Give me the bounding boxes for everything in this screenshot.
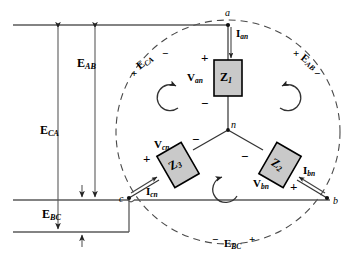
node-dot-b (325, 196, 329, 200)
source-label-ebc-arrow: EBC (42, 208, 61, 222)
eca-circle-plus-sign: + (131, 68, 137, 79)
van-plus-sign: + (201, 51, 208, 64)
vbn-plus-sign: + (290, 180, 297, 193)
eca-circle-minus-sign: − (162, 48, 168, 59)
node-dot-a (226, 23, 230, 27)
voltage-label-vbn: Vbn (253, 178, 269, 190)
current-arrow-ibn (299, 177, 325, 193)
vbn-minus-sign: − (241, 150, 248, 163)
vcn-minus-sign: − (192, 133, 199, 146)
loop-arrow-top-right (280, 85, 301, 111)
node-label-a: a (225, 8, 230, 18)
source-label-eab-arrow: EAB (77, 57, 96, 71)
branch-n-to-z2 (228, 130, 263, 150)
branch-z2-to-b (297, 180, 327, 198)
source-label-ebc-circle: EBC (224, 238, 241, 250)
current-label-ian: Ian (236, 28, 248, 40)
node-dot-c (127, 196, 131, 200)
node-dot-n (226, 128, 230, 132)
loop-arrow-top-left (157, 85, 178, 111)
impedance-label-z1: Z1 (220, 71, 232, 85)
eab-circle-minus-sign: − (314, 68, 320, 79)
ebc-circle-plus-sign: + (249, 234, 255, 245)
source-label-eca-arrow: ECA (40, 124, 59, 138)
vcn-plus-sign: + (143, 152, 150, 165)
current-label-icn: Icn (146, 186, 158, 198)
node-label-n: n (231, 120, 236, 130)
ebc-circle-minus-sign: − (212, 234, 218, 245)
voltage-label-vcn: Vcn (154, 139, 169, 151)
circuit-diagram: a b c n Z1 Z2 Z3 Van + − Vbn + − Vcn + −… (0, 0, 354, 267)
voltage-label-van: Van (187, 72, 203, 84)
current-label-ibn: Ibn (303, 165, 315, 177)
node-label-c: c (119, 194, 123, 204)
van-minus-sign: − (201, 97, 208, 110)
eab-circle-plus-sign: + (293, 48, 299, 59)
loop-arrow-bottom (213, 177, 237, 202)
node-label-b: b (333, 196, 338, 206)
